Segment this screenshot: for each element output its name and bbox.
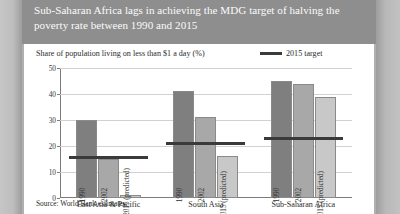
- y-tick-label-40: 40: [49, 90, 56, 99]
- plot-area: 01020304050199020022015 (predicted)East …: [60, 68, 352, 198]
- category-label: South Asia: [157, 200, 254, 209]
- page-gutter-left: [0, 0, 22, 214]
- figure-page: Sub-Saharan Africa lags in achieving the…: [0, 0, 400, 214]
- figure-title: Sub-Saharan Africa lags in achieving the…: [34, 3, 370, 32]
- bar-group: 199020022015 (predicted): [60, 68, 157, 198]
- legend-label-target: 2015 target: [286, 49, 323, 58]
- bar: [293, 84, 314, 198]
- target-line: [264, 137, 343, 140]
- bar: [195, 117, 216, 198]
- target-line: [69, 156, 148, 159]
- y-tick-label-20: 20: [49, 142, 56, 151]
- source-note: Source: World Bank estimates: [36, 199, 125, 208]
- bar-group: 199020022015 (predicted): [255, 68, 352, 198]
- chart-subtitle: Share of population living on less than …: [36, 49, 205, 58]
- y-tick-label-30: 30: [49, 116, 56, 125]
- title-band: Sub-Saharan Africa lags in achieving the…: [22, 0, 376, 44]
- page-gutter-right: [376, 0, 400, 214]
- target-line: [166, 142, 245, 145]
- y-tick-label-10: 10: [49, 168, 56, 177]
- bar-group: 199020022015 (predicted): [157, 68, 254, 198]
- bar: [76, 120, 97, 198]
- bar: [173, 91, 194, 198]
- legend-swatch-target-line-icon: [260, 52, 282, 55]
- chart-legend: 2015 target: [260, 49, 323, 58]
- chart-panel: Share of population living on less than …: [24, 44, 374, 214]
- category-label: Sub-Saharan Africa: [255, 200, 352, 209]
- y-tick-label-50: 50: [49, 64, 56, 73]
- bar: [271, 81, 292, 198]
